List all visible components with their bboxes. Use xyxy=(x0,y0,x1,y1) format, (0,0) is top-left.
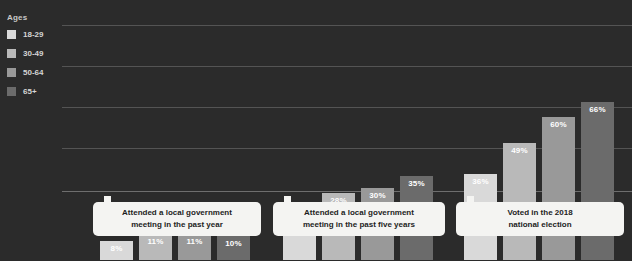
bar-value-label: 36% xyxy=(464,177,497,186)
legend-item-65-plus[interactable]: 65+ xyxy=(7,86,63,96)
legend-title: Ages xyxy=(7,13,63,22)
legend-swatch-30-49 xyxy=(7,49,16,58)
legend-item-18-29[interactable]: 18-29 xyxy=(7,29,63,39)
bar-value-label: 35% xyxy=(400,179,433,188)
callout-tail-icon xyxy=(467,196,474,203)
legend-swatch-50-64 xyxy=(7,68,16,77)
callout-line-1: Attended a local government xyxy=(122,208,232,217)
legend-item-50-64[interactable]: 50-64 xyxy=(7,67,63,77)
bar-value-label: 60% xyxy=(542,120,575,129)
legend-label-30-49: 30-49 xyxy=(23,49,43,58)
category-callout-2: Voted in the 2018 national election xyxy=(456,202,624,236)
category-callout-0: Attended a local government meeting in t… xyxy=(93,202,261,236)
callout-line-2: national election xyxy=(508,220,571,229)
bar-value-label: 10% xyxy=(217,239,250,248)
gridline xyxy=(62,66,632,67)
callout-line-2: meeting in the past five years xyxy=(303,220,415,229)
legend-label-18-29: 18-29 xyxy=(23,30,43,39)
bar-chart: Ages 18-29 30-49 50-64 65+ 8%11%11%10% 2… xyxy=(0,0,632,261)
bar[interactable]: 66% xyxy=(581,102,614,260)
legend-label-50-64: 50-64 xyxy=(23,68,43,77)
legend-item-30-49[interactable]: 30-49 xyxy=(7,48,63,58)
callout-text-2: Voted in the 2018 national election xyxy=(507,207,572,231)
legend-swatch-18-29 xyxy=(7,30,16,39)
gridline xyxy=(62,25,632,26)
legend: Ages 18-29 30-49 50-64 65+ xyxy=(7,13,63,105)
bar-value-label: 49% xyxy=(503,146,536,155)
legend-label-65-plus: 65+ xyxy=(23,87,37,96)
callout-text-0: Attended a local government meeting in t… xyxy=(122,207,232,231)
bar-value-label: 30% xyxy=(361,191,394,200)
bar-value-label: 8% xyxy=(100,244,133,253)
legend-swatch-65-plus xyxy=(7,87,16,96)
bar-value-label: 11% xyxy=(139,237,172,246)
callout-line-1: Attended a local government xyxy=(304,208,414,217)
bar[interactable]: 8% xyxy=(100,241,133,260)
callout-text-1: Attended a local government meeting in t… xyxy=(303,207,415,231)
callout-tail-icon xyxy=(104,196,111,203)
bar[interactable]: 11% xyxy=(178,234,211,260)
bar[interactable]: 11% xyxy=(139,234,172,260)
callout-line-2: meeting in the past year xyxy=(131,220,223,229)
bar[interactable]: 60% xyxy=(542,117,575,260)
callout-tail-icon xyxy=(284,196,291,203)
bar[interactable]: 10% xyxy=(217,236,250,260)
bar-value-label: 11% xyxy=(178,237,211,246)
bar-value-label: 66% xyxy=(581,105,614,114)
callout-line-1: Voted in the 2018 xyxy=(507,208,572,217)
category-callout-1: Attended a local government meeting in t… xyxy=(273,202,445,236)
